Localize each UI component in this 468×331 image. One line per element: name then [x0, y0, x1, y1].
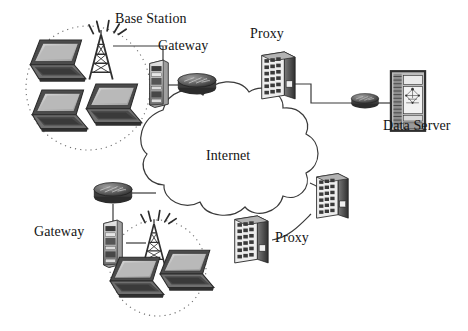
laptop-icon [32, 90, 88, 132]
label-internet: Internet [206, 149, 250, 163]
network-diagram-canvas: Base Station Gateway Proxy Data Server I… [0, 0, 468, 331]
label-gateway-top: Gateway [158, 39, 208, 53]
proxy-switch-icon [235, 216, 268, 263]
router-icon [178, 74, 216, 95]
proxy-switch-icon [317, 174, 349, 219]
diagram-graphics [0, 0, 468, 331]
label-data-server: Data Server [383, 119, 451, 133]
laptop-icon [110, 257, 164, 297]
label-proxy-bottom: Proxy [275, 231, 309, 245]
label-gateway-bottom: Gateway [34, 225, 84, 239]
antenna-tower-icon [89, 30, 112, 80]
router-icon [94, 183, 132, 204]
link-proxy-router-right [294, 84, 352, 103]
router-icon [351, 94, 378, 109]
laptop-icon [30, 40, 86, 82]
label-proxy-top: Proxy [250, 27, 284, 41]
laptop-icon [86, 84, 142, 126]
gateway-server-icon [150, 60, 169, 107]
laptop-icon [160, 250, 214, 290]
label-base-station: Base Station [115, 12, 187, 26]
proxy-switch-icon [262, 52, 295, 99]
link-tower-gateway-top [113, 46, 163, 62]
